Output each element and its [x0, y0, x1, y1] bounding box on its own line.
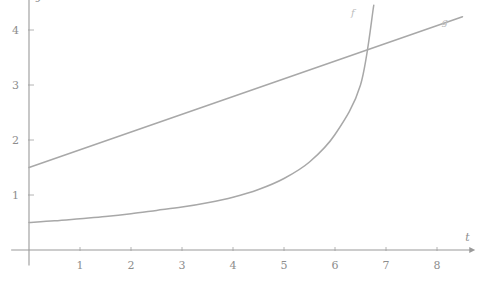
x-tick-label: 7 — [383, 259, 390, 272]
y-tick-label: 3 — [12, 79, 19, 92]
curve-f — [29, 5, 374, 222]
x-tick-label: 3 — [179, 259, 186, 272]
chart-figure: 12345678 1234 t y fg — [0, 0, 480, 284]
x-tick-label: 2 — [128, 259, 135, 272]
x-tick-label: 6 — [332, 259, 339, 272]
curve-g — [29, 17, 463, 168]
x-axis-arrowhead — [469, 247, 475, 253]
data-curves — [29, 5, 463, 222]
curve-label-f: f — [350, 7, 357, 18]
curve-label-g: g — [441, 16, 447, 27]
x-tick-label: 4 — [230, 259, 237, 272]
y-tick-label: 1 — [12, 189, 19, 202]
x-axis-label: t — [465, 231, 470, 244]
x-tick-label: 8 — [434, 259, 441, 272]
y-axis-label: y — [35, 0, 43, 3]
y-tick-labels: 1234 — [12, 24, 19, 202]
x-tick-labels: 12345678 — [77, 259, 441, 272]
chart-plot-area: 12345678 1234 t y fg — [0, 0, 480, 284]
y-tick-label: 2 — [12, 134, 19, 147]
x-tick-label: 1 — [77, 259, 84, 272]
y-tick-label: 4 — [12, 24, 19, 37]
x-tick-label: 5 — [281, 259, 288, 272]
curve-labels: fg — [350, 7, 448, 26]
